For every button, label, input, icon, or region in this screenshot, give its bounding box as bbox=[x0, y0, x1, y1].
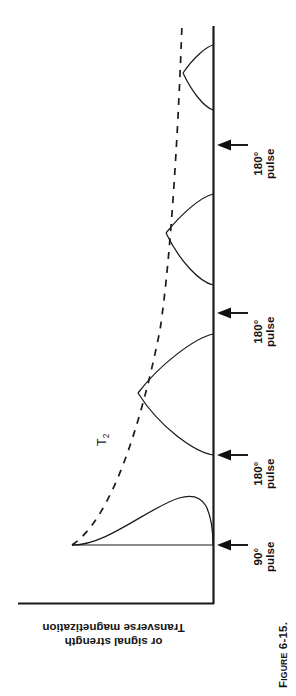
pulse-label-180-1-angle: 180° bbox=[252, 458, 264, 489]
pulse-label-180-2-angle: 180° bbox=[252, 316, 264, 347]
spin-echo-plot bbox=[0, 0, 296, 696]
echo-2-rising bbox=[166, 233, 213, 285]
t2-label-main: T bbox=[95, 438, 109, 446]
axes-group bbox=[18, 26, 214, 604]
echo-1 bbox=[138, 334, 213, 455]
t2-decay-label: T2 bbox=[96, 433, 109, 446]
echo-2 bbox=[166, 194, 213, 285]
axis-title: or signal strength Transverse magnetizat… bbox=[6, 622, 221, 649]
echo-1-rising bbox=[138, 393, 213, 455]
fid-decay-curve bbox=[72, 496, 213, 545]
echo-3 bbox=[183, 45, 213, 110]
echo-3-rising bbox=[183, 73, 213, 110]
figure-container: T2 90° pulse 180° pulse 180° pulse 180° … bbox=[0, 0, 296, 696]
t2-label-subscript: 2 bbox=[101, 433, 111, 438]
pulse-label-180-3: 180° pulse bbox=[252, 148, 276, 179]
pulse-label-90-angle: 90° bbox=[252, 541, 264, 572]
pulse-label-180-3-angle: 180° bbox=[252, 148, 264, 179]
pulse-label-90-word: pulse bbox=[264, 541, 276, 572]
pulse-label-90: 90° pulse bbox=[252, 541, 276, 572]
figure-caption-number: 6-15. bbox=[277, 622, 289, 653]
axis-title-line-1: Transverse magnetization bbox=[6, 622, 221, 636]
pulse-label-180-1-word: pulse bbox=[264, 458, 276, 489]
echo-1-falling bbox=[138, 334, 213, 393]
pulse-arrow-180-3 bbox=[217, 140, 248, 151]
pulse-arrow-180-1 bbox=[217, 450, 248, 461]
figure-caption: FIGURE 6-15. bbox=[277, 622, 289, 688]
pulse-arrows-group bbox=[217, 140, 248, 551]
pulse-arrow-90 bbox=[217, 540, 248, 551]
pulse-label-180-2: 180° pulse bbox=[252, 316, 276, 347]
pulse-label-180-1: 180° pulse bbox=[252, 458, 276, 489]
figure-caption-prefix: F bbox=[277, 681, 289, 688]
axis-title-line-2: or signal strength bbox=[6, 636, 221, 650]
t2-decay-envelope bbox=[72, 24, 182, 545]
figure-caption-smallcaps: IGURE bbox=[279, 653, 289, 681]
pulse-label-180-3-word: pulse bbox=[264, 148, 276, 179]
pulse-arrow-180-2 bbox=[217, 308, 248, 319]
echo-3-falling bbox=[183, 45, 213, 73]
pulse-label-180-2-word: pulse bbox=[264, 316, 276, 347]
